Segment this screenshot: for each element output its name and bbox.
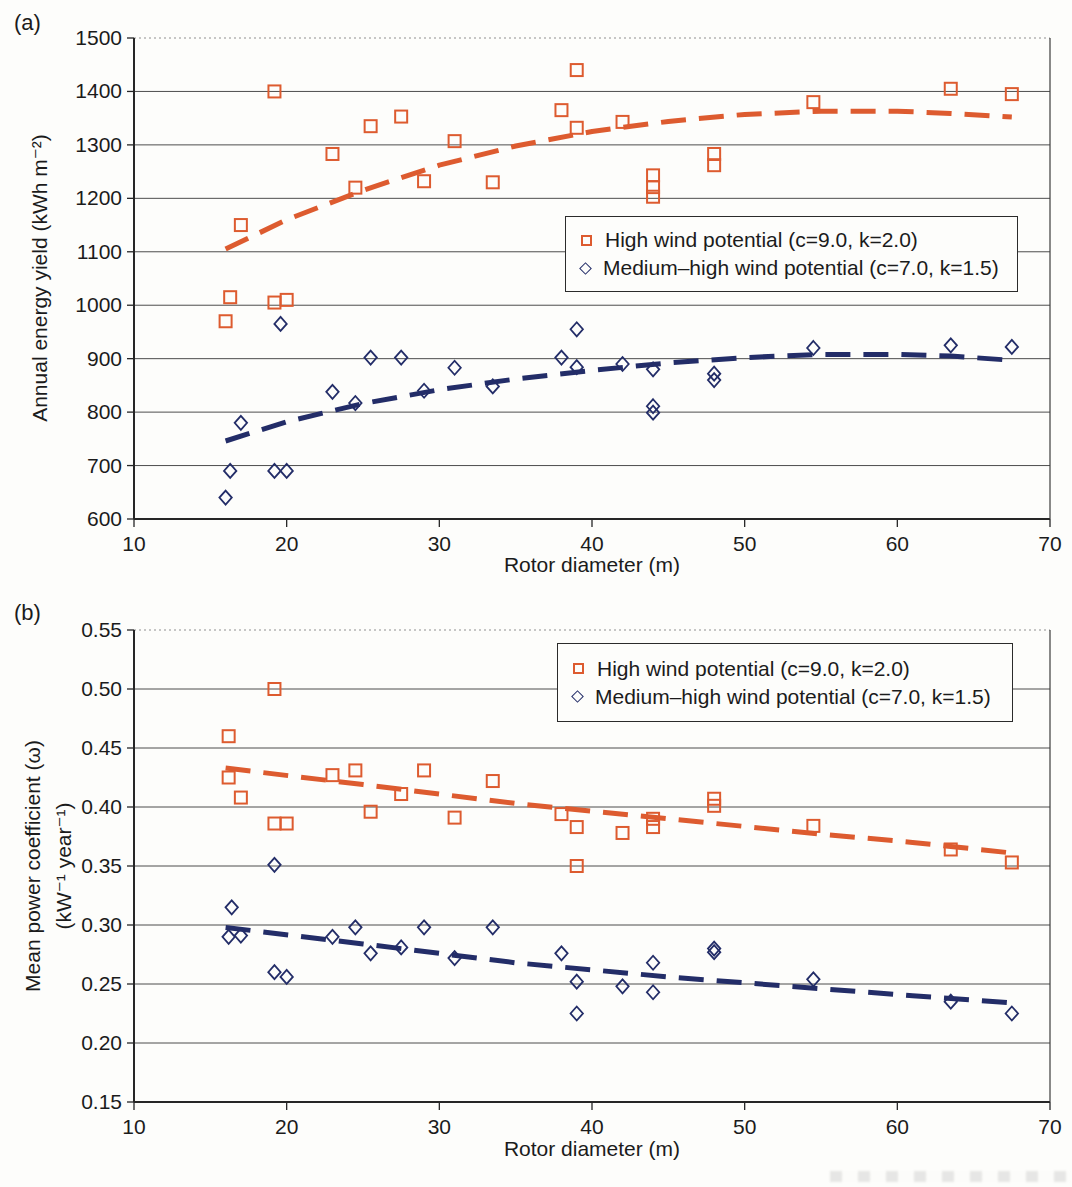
data-point-diamond: [945, 338, 957, 352]
data-point-diamond: [418, 920, 430, 934]
x-tick-label: 50: [733, 1115, 756, 1138]
y-tick-label: 600: [87, 507, 122, 530]
data-point-diamond: [235, 416, 247, 430]
x-tick-label: 50: [733, 532, 756, 555]
y-tick-label: 0.25: [81, 972, 122, 995]
data-point-diamond: [268, 965, 280, 979]
square-marker-icon: [581, 235, 592, 246]
data-point-diamond: [571, 322, 583, 336]
data-point-square: [708, 148, 720, 160]
x-tick-label: 60: [886, 1115, 909, 1138]
panel-a-plot: 1500140013001200110010009008007006001020…: [0, 0, 1072, 594]
data-point-diamond: [219, 491, 231, 505]
y-tick-label: 0.30: [81, 913, 122, 936]
y-tick-label: 0.45: [81, 736, 122, 759]
legend-label-medium-high-wind: Medium–high wind potential (c=7.0, k=1.5…: [603, 256, 999, 280]
x-tick-label: 70: [1038, 532, 1061, 555]
legend-row-medium-high-wind: Medium–high wind potential (c=7.0, k=1.5…: [581, 256, 1017, 280]
data-point-square: [223, 730, 235, 742]
panel-b-x-axis-title: Rotor diameter (m): [134, 1137, 1050, 1161]
data-point-diamond: [571, 1007, 583, 1021]
data-point-diamond: [647, 985, 659, 999]
data-point-square: [281, 818, 293, 830]
y-tick-label: 1000: [75, 293, 122, 316]
y-tick-label: 1300: [75, 133, 122, 156]
data-point-square: [487, 775, 499, 787]
panel-a-x-axis-title: Rotor diameter (m): [134, 553, 1050, 577]
data-point-square: [807, 96, 819, 108]
x-tick-label: 30: [428, 532, 451, 555]
data-point-diamond: [226, 900, 238, 914]
data-point-square: [268, 818, 280, 830]
y-tick-label: 0.55: [81, 618, 122, 641]
data-point-diamond: [1006, 1007, 1018, 1021]
data-point-square: [235, 219, 247, 231]
y-tick-label: 0.20: [81, 1031, 122, 1054]
x-tick-label: 40: [580, 1115, 603, 1138]
data-point-diamond: [326, 930, 338, 944]
data-point-square: [617, 827, 629, 839]
data-point-diamond: [395, 351, 407, 365]
data-point-diamond: [647, 956, 659, 970]
data-point-square: [555, 104, 567, 116]
data-point-diamond: [326, 385, 338, 399]
x-tick-label: 60: [886, 532, 909, 555]
data-point-square: [647, 821, 659, 833]
data-point-diamond: [555, 351, 567, 365]
data-point-square: [418, 175, 430, 187]
data-point-square: [1006, 856, 1018, 868]
data-point-square: [487, 176, 499, 188]
y-tick-label: 1200: [75, 186, 122, 209]
data-point-diamond: [364, 351, 376, 365]
data-point-diamond: [448, 361, 460, 375]
y-tick-label: 1500: [75, 26, 122, 49]
data-point-diamond: [1006, 340, 1018, 354]
data-point-square: [326, 148, 338, 160]
data-point-square: [349, 182, 361, 194]
x-tick-label: 20: [275, 532, 298, 555]
data-point-square: [571, 821, 583, 833]
scan-artifact: [830, 1171, 1070, 1182]
y-tick-label: 0.50: [81, 677, 122, 700]
y-tick-label: 0.35: [81, 854, 122, 877]
data-point-square: [365, 120, 377, 132]
data-point-diamond: [616, 979, 628, 993]
data-point-square: [281, 294, 293, 306]
y-tick-label: 1100: [77, 240, 122, 263]
data-point-square: [235, 792, 247, 804]
panel-a-legend: High wind potential (c=9.0, k=2.0) Mediu…: [565, 216, 1018, 292]
y-tick-label: 800: [87, 400, 122, 423]
y-tick-label: 0.40: [81, 795, 122, 818]
data-point-diamond: [349, 920, 361, 934]
data-point-diamond: [274, 317, 286, 331]
data-point-diamond: [268, 858, 280, 872]
data-point-square: [945, 83, 957, 95]
legend-row-high-wind: High wind potential (c=9.0, k=2.0): [573, 657, 1012, 681]
data-point-diamond: [571, 975, 583, 989]
data-point-diamond: [487, 920, 499, 934]
x-tick-label: 70: [1038, 1115, 1061, 1138]
y-tick-label: 1400: [75, 79, 122, 102]
x-tick-label: 10: [122, 1115, 145, 1138]
legend-label-high-wind: High wind potential (c=9.0, k=2.0): [605, 228, 918, 252]
x-tick-label: 20: [275, 1115, 298, 1138]
x-tick-label: 40: [580, 532, 603, 555]
data-point-square: [395, 111, 407, 123]
data-point-square: [220, 315, 232, 327]
legend-label-medium-high-wind: Medium–high wind potential (c=7.0, k=1.5…: [595, 685, 991, 709]
panel-a: (a) Annual energy yield (kWh m⁻²) 150014…: [0, 0, 1072, 594]
data-point-square: [571, 64, 583, 76]
diamond-marker-icon: [571, 690, 584, 703]
data-point-square: [449, 812, 461, 824]
data-point-diamond: [555, 946, 567, 960]
data-point-square: [807, 820, 819, 832]
panel-b-legend: High wind potential (c=9.0, k=2.0) Mediu…: [557, 643, 1013, 722]
diamond-marker-icon: [579, 262, 592, 275]
x-tick-label: 10: [122, 532, 145, 555]
legend-row-medium-high-wind: Medium–high wind potential (c=7.0, k=1.5…: [573, 685, 1012, 709]
data-point-square: [365, 806, 377, 818]
legend-label-high-wind: High wind potential (c=9.0, k=2.0): [597, 657, 910, 681]
y-tick-label: 700: [87, 454, 122, 477]
panel-b: (b) Mean power coefficient (ω) (kW⁻¹ yea…: [0, 594, 1072, 1187]
square-marker-icon: [573, 663, 584, 674]
